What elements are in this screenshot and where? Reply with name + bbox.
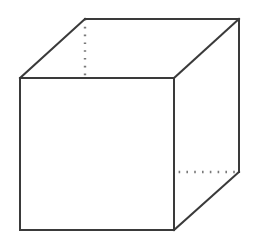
cube-figure-canvas xyxy=(0,0,264,241)
cube-diagram xyxy=(0,0,264,241)
cube-face-front-fill xyxy=(21,79,173,229)
